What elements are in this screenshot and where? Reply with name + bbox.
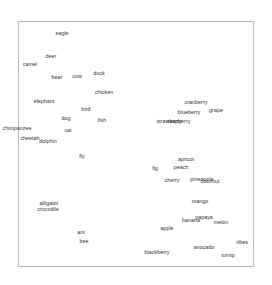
point-label: mango — [192, 199, 208, 204]
point-label: fish — [98, 118, 106, 123]
point-label: bird — [82, 107, 91, 112]
point-label: coconut — [201, 179, 220, 184]
point-label: avocado — [194, 245, 214, 250]
point-label: grape — [209, 108, 223, 113]
point-label: dolphin — [39, 139, 56, 144]
point-label: cat — [64, 128, 71, 133]
point-label: cow — [72, 74, 82, 79]
point-label: fly — [79, 154, 84, 159]
point-label: chicken — [95, 90, 113, 95]
point-label: apple — [160, 226, 173, 231]
point-label: raspberry — [168, 119, 191, 124]
point-label: elephant — [34, 99, 55, 104]
point-label: melon — [214, 220, 229, 225]
point-label: deer — [46, 54, 57, 59]
point-label: apricot — [178, 157, 194, 162]
point-label: cherry — [165, 178, 180, 183]
point-label: cranberry — [185, 100, 208, 105]
point-label: dog — [62, 116, 71, 121]
point-label: camel — [23, 62, 37, 67]
point-label: eagle — [55, 31, 68, 36]
point-label: blackberry — [145, 250, 170, 255]
point-label: peach — [174, 165, 189, 170]
point-label: turnip — [221, 253, 235, 258]
point-label: bee — [80, 239, 89, 244]
point-label: crocodile — [37, 207, 59, 212]
point-label: ant — [77, 230, 85, 235]
point-label: duck — [93, 71, 104, 76]
point-label: ribes — [236, 240, 248, 245]
point-label: cheetah — [20, 136, 39, 141]
point-label: blueberry — [178, 110, 200, 115]
point-label: banana — [182, 218, 200, 223]
point-label: chimpanzee — [2, 126, 31, 131]
point-label: bear — [52, 75, 63, 80]
point-label: fig — [152, 166, 158, 171]
